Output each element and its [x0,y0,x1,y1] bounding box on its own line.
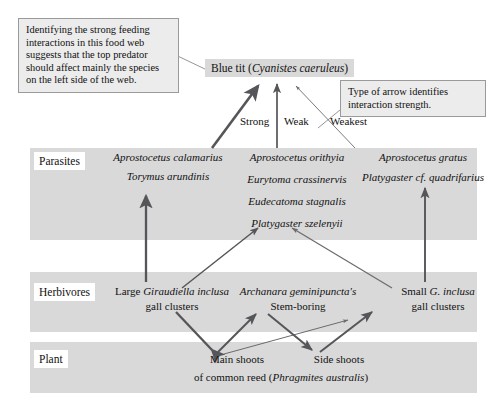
level-label-herbivores: Herbivores [34,283,95,301]
plant-main-shoots: Main shoots [178,352,296,367]
arrow-main-shoots-to-small-galls [224,320,348,354]
arrow-key-weakest: Weakest [330,115,367,127]
blue-tit-paren-close: ) [344,62,348,74]
parasite-aprostocetus-orithyia: Aprostocetus orithyia [222,150,372,165]
callout-right-annotation: Type of arrow identifies interaction str… [340,80,486,117]
reed-suffix: ) [364,371,368,383]
parasite-platygaster-szelenyii: Platygaster szelenyii [222,216,372,231]
parasite-eudecatoma-stagnalis: Eudecatoma stagnalis [222,194,372,209]
level-label-plant: Plant [34,350,68,368]
blue-tit-scientific-name: Cyanistes caeruleus [252,62,344,74]
parasite-eurytoma-crassinervis: Eurytoma crassinervis [222,172,372,187]
plant-side-shoots: Side shoots [296,352,382,367]
herbivore-left-prefix: Large [115,285,143,297]
arrow-main-shoots-to-large-galls [176,312,212,350]
herbivore-right-line2: gall clusters [412,300,465,312]
herbivore-right-prefix: Small [401,285,429,297]
herbivore-right-scientific-name: G. inclusa [430,285,475,297]
reed-scientific-name: Phragmites australis [272,371,364,383]
herbivore-middle-scientific-name: Archanara geminipuncta's [240,285,357,297]
herbivore-left-scientific-name: Giraudiella inclusa [143,285,229,297]
arrow-key-weak: Weak [284,115,309,127]
parasite-aprostocetus-gratus: Aprostocetus gratus [358,150,488,165]
parasite-platygaster-cf-quadrifarius: Platygaster cf. quadrifarius [352,170,494,185]
reed-prefix: of common reed ( [194,371,273,383]
arrow-side-shoots-to-small-galls [320,312,372,352]
callout-left-annotation: Identifying the strong feeding interacti… [18,18,179,93]
arrow-small-galls-to-middle-parasites [292,228,392,288]
herbivore-left-line2: gall clusters [146,300,199,312]
arrow-large-galls-to-middle-parasites [182,228,258,288]
food-web-figure: Identifying the strong feeding interacti… [0,0,498,410]
level-label-parasites: Parasites [34,152,85,170]
herbivore-archanara-stem-boring: Archanara geminipuncta's Stem-boring [228,284,368,314]
node-blue-tit: Blue tit (Cyanistes caeruleus) [205,59,354,77]
arrow-key-strong: Strong [240,115,269,127]
blue-tit-common-name: Blue tit [211,62,245,74]
herbivore-small-giraudiella-galls: Small G. inclusa gall clusters [384,284,492,314]
plant-common-reed: of common reed (Phragmites australis) [168,370,394,385]
herbivore-middle-line2: Stem-boring [271,300,326,312]
